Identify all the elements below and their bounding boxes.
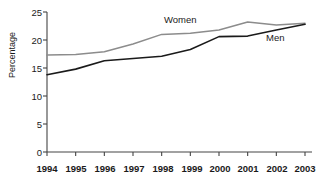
series-line-men (47, 24, 305, 74)
y-axis-ticks (43, 12, 47, 152)
series-line-women (47, 22, 305, 55)
plot-area (0, 0, 329, 183)
x-axis-ticks (47, 152, 305, 156)
line-chart: Percentage 25 20 15 10 5 0 1994 1995 199… (0, 0, 329, 183)
